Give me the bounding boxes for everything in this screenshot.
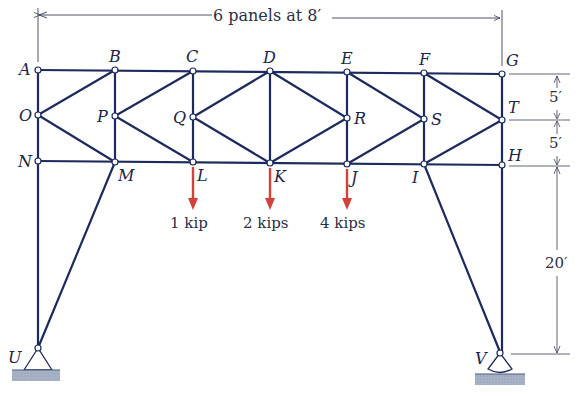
load-label-J: 4 kips — [320, 216, 366, 231]
truss-diagram: 6 panels at 8′ 5′ 5′ 20′ A B C D E F G O… — [0, 0, 579, 396]
dimension-mid-to-bottom: 5′ — [549, 136, 562, 151]
joint-label-B: B — [109, 49, 121, 65]
joint-label-P: P — [97, 109, 108, 125]
joint-label-T: T — [508, 100, 519, 116]
load-label-K: 2 kips — [243, 216, 289, 231]
load-arrows — [188, 167, 352, 210]
joint-label-D: D — [263, 50, 276, 66]
dimension-top-to-mid: 5′ — [549, 90, 562, 105]
joint-label-U: U — [8, 350, 21, 366]
span-dimension-label: 6 panels at 8′ — [213, 8, 321, 24]
dimension-column-height: 20′ — [545, 256, 568, 271]
joint-label-E: E — [341, 51, 353, 67]
joint-label-R: R — [354, 111, 366, 127]
joint-label-O: O — [19, 108, 32, 124]
joint-label-M: M — [118, 168, 134, 184]
joint-label-F: F — [419, 52, 430, 68]
joint-label-A: A — [19, 62, 31, 78]
joint-label-N: N — [18, 154, 32, 170]
joint-label-L: L — [197, 168, 208, 184]
joint-label-S: S — [431, 112, 442, 128]
joint-label-I: I — [412, 170, 418, 186]
joint-label-K: K — [274, 169, 286, 185]
joint-label-G: G — [506, 53, 519, 69]
joint-label-V: V — [475, 351, 487, 367]
load-label-L: 1 kip — [170, 216, 208, 231]
truss-drawing — [0, 0, 579, 396]
joint-label-C: C — [186, 49, 198, 65]
joint-label-Q: Q — [173, 110, 186, 126]
joint-label-H: H — [508, 148, 522, 164]
joint-label-J: J — [351, 170, 357, 186]
